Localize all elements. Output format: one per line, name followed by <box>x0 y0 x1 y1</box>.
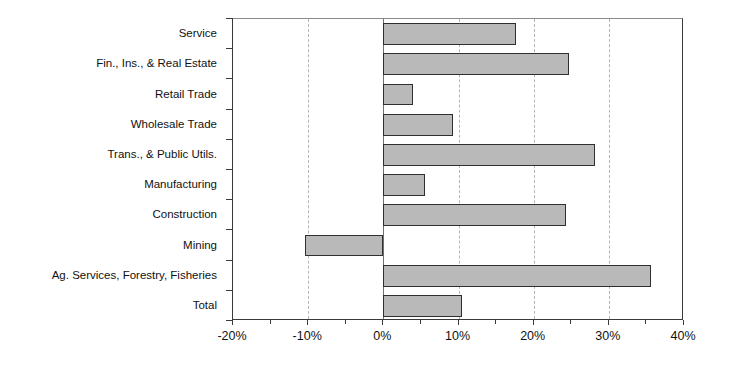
x-axis-tick <box>382 320 383 325</box>
y-axis-label: Mining <box>183 239 217 251</box>
y-axis-tick <box>226 109 233 110</box>
bar <box>383 114 453 136</box>
y-axis-label: Total <box>193 299 217 311</box>
y-axis-label: Ag. Services, Forestry, Fisheries <box>52 269 217 281</box>
bar <box>383 84 413 106</box>
bar <box>305 235 383 257</box>
y-axis-tick <box>226 229 233 230</box>
y-axis-label: Fin., Ins., & Real Estate <box>96 57 217 69</box>
x-axis-label: 0% <box>373 329 391 344</box>
bar <box>383 23 515 45</box>
y-axis-category-labels: ServiceFin., Ins., & Real EstateRetail T… <box>0 18 225 320</box>
x-axis-tick-minor <box>645 320 646 324</box>
y-axis-label: Trans., & Public Utils. <box>108 148 218 160</box>
x-axis-tick <box>458 320 459 325</box>
x-axis-label: 10% <box>445 329 470 344</box>
gridline--10 <box>308 19 309 319</box>
x-axis-label: 30% <box>595 329 620 344</box>
x-axis-tick <box>307 320 308 325</box>
bar-chart: ServiceFin., Ins., & Real EstateRetail T… <box>0 0 732 367</box>
y-axis-label: Wholesale Trade <box>131 118 217 130</box>
x-axis-tick <box>533 320 534 325</box>
x-axis-tick <box>232 320 233 325</box>
x-axis-tick-minor <box>270 320 271 324</box>
y-axis-tick <box>226 169 233 170</box>
x-axis-tick-minor <box>345 320 346 324</box>
y-axis-label: Construction <box>152 208 217 220</box>
x-axis-tick-minor <box>420 320 421 324</box>
y-axis-tick <box>226 139 233 140</box>
y-axis-label: Retail Trade <box>155 88 217 100</box>
y-axis-label: Service <box>179 27 217 39</box>
x-axis-label: -10% <box>293 329 322 344</box>
y-axis-tick <box>226 18 233 19</box>
bar <box>383 295 461 317</box>
x-axis-tick <box>608 320 609 325</box>
y-axis-label: Manufacturing <box>144 178 217 190</box>
x-axis-tick-minor <box>495 320 496 324</box>
y-axis-tick <box>226 290 233 291</box>
x-axis-label: 20% <box>520 329 545 344</box>
bar <box>383 204 566 226</box>
bar <box>383 144 594 166</box>
plot-area <box>232 18 683 320</box>
x-axis-tick <box>683 320 684 325</box>
x-axis-label: -20% <box>217 329 246 344</box>
x-axis-tick-minor <box>570 320 571 324</box>
y-axis-tick <box>226 260 233 261</box>
y-axis-tick <box>226 78 233 79</box>
bar <box>383 265 651 287</box>
y-axis-tick <box>226 199 233 200</box>
y-axis-tick <box>226 48 233 49</box>
bar <box>383 53 569 75</box>
x-axis-label: 40% <box>670 329 695 344</box>
bar <box>383 174 425 196</box>
